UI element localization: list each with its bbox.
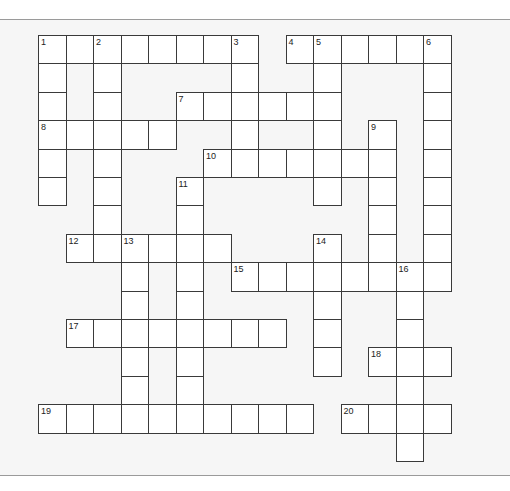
grid-cell-r5-c0[interactable]: [38, 177, 67, 206]
grid-cell-r13-c3[interactable]: [121, 404, 150, 433]
grid-cell-r13-c9[interactable]: [286, 404, 315, 433]
grid-cell-r8-c9[interactable]: [286, 262, 315, 291]
grid-cell-r11-c13[interactable]: [396, 347, 425, 376]
grid-cell-r8-c7[interactable]: 15: [231, 262, 260, 291]
grid-cell-r2-c7[interactable]: [231, 92, 260, 121]
grid-cell-r3-c4[interactable]: [148, 120, 177, 149]
grid-cell-r9-c3[interactable]: [121, 291, 150, 320]
grid-cell-r7-c6[interactable]: [203, 234, 232, 263]
grid-cell-r7-c3[interactable]: 13: [121, 234, 150, 263]
grid-cell-r0-c9[interactable]: 4: [286, 35, 315, 64]
grid-cell-r4-c0[interactable]: [38, 149, 67, 178]
grid-cell-r11-c10[interactable]: [313, 347, 342, 376]
grid-cell-r11-c14[interactable]: [423, 347, 452, 376]
grid-cell-r8-c5[interactable]: [176, 262, 205, 291]
grid-cell-r3-c10[interactable]: [313, 120, 342, 149]
grid-cell-r3-c14[interactable]: [423, 120, 452, 149]
grid-cell-r0-c4[interactable]: [148, 35, 177, 64]
grid-cell-r10-c3[interactable]: [121, 319, 150, 348]
grid-cell-r6-c12[interactable]: [368, 205, 397, 234]
grid-cell-r1-c7[interactable]: [231, 63, 260, 92]
grid-cell-r2-c14[interactable]: [423, 92, 452, 121]
grid-cell-r1-c2[interactable]: [93, 63, 122, 92]
grid-cell-r2-c6[interactable]: [203, 92, 232, 121]
grid-cell-r7-c1[interactable]: 12: [66, 234, 95, 263]
grid-cell-r11-c12[interactable]: 18: [368, 347, 397, 376]
grid-cell-r8-c10[interactable]: [313, 262, 342, 291]
grid-cell-r2-c5[interactable]: 7: [176, 92, 205, 121]
grid-cell-r5-c2[interactable]: [93, 177, 122, 206]
grid-cell-r5-c12[interactable]: [368, 177, 397, 206]
grid-cell-r3-c3[interactable]: [121, 120, 150, 149]
grid-cell-r10-c10[interactable]: [313, 319, 342, 348]
grid-cell-r13-c4[interactable]: [148, 404, 177, 433]
grid-cell-r12-c13[interactable]: [396, 376, 425, 405]
grid-cell-r1-c14[interactable]: [423, 63, 452, 92]
grid-cell-r1-c0[interactable]: [38, 63, 67, 92]
grid-cell-r7-c2[interactable]: [93, 234, 122, 263]
grid-cell-r7-c10[interactable]: 14: [313, 234, 342, 263]
grid-cell-r4-c2[interactable]: [93, 149, 122, 178]
grid-cell-r5-c5[interactable]: 11: [176, 177, 205, 206]
grid-cell-r0-c3[interactable]: [121, 35, 150, 64]
grid-cell-r0-c2[interactable]: 2: [93, 35, 122, 64]
grid-cell-r13-c5[interactable]: [176, 404, 205, 433]
grid-cell-r4-c10[interactable]: [313, 149, 342, 178]
grid-cell-r2-c2[interactable]: [93, 92, 122, 121]
grid-cell-r7-c4[interactable]: [148, 234, 177, 263]
grid-cell-r8-c3[interactable]: [121, 262, 150, 291]
grid-cell-r3-c1[interactable]: [66, 120, 95, 149]
grid-cell-r8-c8[interactable]: [258, 262, 287, 291]
grid-cell-r13-c0[interactable]: 19: [38, 404, 67, 433]
grid-cell-r4-c11[interactable]: [341, 149, 370, 178]
grid-cell-r0-c11[interactable]: [341, 35, 370, 64]
grid-cell-r13-c11[interactable]: 20: [341, 404, 370, 433]
grid-cell-r3-c12[interactable]: 9: [368, 120, 397, 149]
grid-cell-r12-c3[interactable]: [121, 376, 150, 405]
grid-cell-r10-c2[interactable]: [93, 319, 122, 348]
grid-cell-r2-c0[interactable]: [38, 92, 67, 121]
grid-cell-r7-c12[interactable]: [368, 234, 397, 263]
grid-cell-r10-c6[interactable]: [203, 319, 232, 348]
grid-cell-r13-c1[interactable]: [66, 404, 95, 433]
grid-cell-r8-c12[interactable]: [368, 262, 397, 291]
grid-cell-r5-c10[interactable]: [313, 177, 342, 206]
grid-cell-r1-c10[interactable]: [313, 63, 342, 92]
grid-cell-r4-c14[interactable]: [423, 149, 452, 178]
grid-cell-r3-c0[interactable]: 8: [38, 120, 67, 149]
grid-cell-r6-c14[interactable]: [423, 205, 452, 234]
grid-cell-r13-c8[interactable]: [258, 404, 287, 433]
grid-cell-r14-c13[interactable]: [396, 433, 425, 462]
grid-cell-r4-c6[interactable]: 10: [203, 149, 232, 178]
grid-cell-r0-c5[interactable]: [176, 35, 205, 64]
grid-cell-r0-c6[interactable]: [203, 35, 232, 64]
grid-cell-r0-c12[interactable]: [368, 35, 397, 64]
grid-cell-r2-c9[interactable]: [286, 92, 315, 121]
grid-cell-r10-c4[interactable]: [148, 319, 177, 348]
grid-cell-r5-c14[interactable]: [423, 177, 452, 206]
grid-cell-r0-c10[interactable]: 5: [313, 35, 342, 64]
grid-cell-r4-c12[interactable]: [368, 149, 397, 178]
grid-cell-r13-c6[interactable]: [203, 404, 232, 433]
grid-cell-r13-c12[interactable]: [368, 404, 397, 433]
grid-cell-r2-c8[interactable]: [258, 92, 287, 121]
grid-cell-r6-c2[interactable]: [93, 205, 122, 234]
grid-cell-r9-c5[interactable]: [176, 291, 205, 320]
grid-cell-r4-c9[interactable]: [286, 149, 315, 178]
grid-cell-r11-c5[interactable]: [176, 347, 205, 376]
grid-cell-r0-c1[interactable]: [66, 35, 95, 64]
grid-cell-r8-c14[interactable]: [423, 262, 452, 291]
grid-cell-r8-c13[interactable]: 16: [396, 262, 425, 291]
grid-cell-r10-c7[interactable]: [231, 319, 260, 348]
grid-cell-r7-c14[interactable]: [423, 234, 452, 263]
grid-cell-r0-c0[interactable]: 1: [38, 35, 67, 64]
grid-cell-r10-c1[interactable]: 17: [66, 319, 95, 348]
grid-cell-r10-c13[interactable]: [396, 319, 425, 348]
grid-cell-r3-c2[interactable]: [93, 120, 122, 149]
grid-cell-r0-c13[interactable]: [396, 35, 425, 64]
grid-cell-r13-c14[interactable]: [423, 404, 452, 433]
grid-cell-r10-c8[interactable]: [258, 319, 287, 348]
grid-cell-r13-c2[interactable]: [93, 404, 122, 433]
grid-cell-r11-c3[interactable]: [121, 347, 150, 376]
grid-cell-r7-c5[interactable]: [176, 234, 205, 263]
